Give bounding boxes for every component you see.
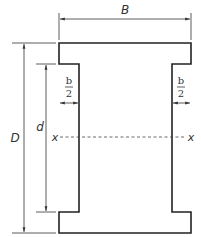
label-flange-width: B bbox=[121, 3, 129, 17]
label-half-b-right-den: 2 bbox=[178, 88, 184, 99]
label-half-b-left-den: 2 bbox=[66, 88, 72, 99]
label-web-depth: d bbox=[36, 120, 44, 134]
label-half-b-right-num: b bbox=[178, 75, 184, 86]
i-section-outline bbox=[59, 43, 191, 233]
label-half-b-left-num: b bbox=[66, 75, 72, 86]
label-overall-depth: D bbox=[10, 131, 19, 145]
label-axis-left: x bbox=[51, 131, 59, 144]
i-section-diagram: B D d b 2 b 2 x x bbox=[0, 0, 201, 237]
label-axis-right: x bbox=[187, 131, 195, 144]
